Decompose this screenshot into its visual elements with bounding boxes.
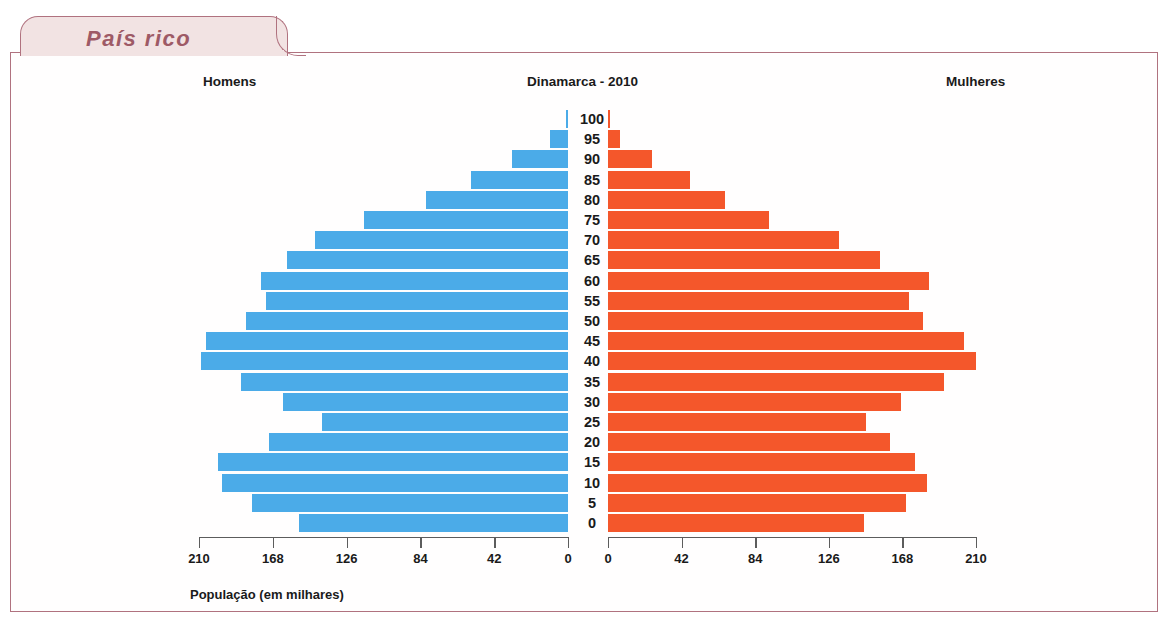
female-bar[interactable] — [608, 352, 976, 370]
male-bar-row[interactable] — [241, 373, 568, 391]
male-bar-row[interactable] — [426, 191, 568, 209]
male-bar[interactable] — [315, 231, 568, 249]
female-bar[interactable] — [608, 251, 880, 269]
female-bar-row[interactable] — [608, 231, 839, 249]
female-bar[interactable] — [608, 373, 944, 391]
male-bar[interactable] — [218, 453, 568, 471]
female-bar[interactable] — [608, 413, 866, 431]
female-bar-row[interactable] — [608, 393, 901, 411]
female-bar-row[interactable] — [608, 150, 652, 168]
female-bar[interactable] — [608, 171, 690, 189]
female-bar[interactable] — [608, 292, 909, 310]
female-bar[interactable] — [608, 494, 906, 512]
male-bar[interactable] — [364, 211, 568, 229]
female-bar[interactable] — [608, 393, 901, 411]
female-bar-row[interactable] — [608, 453, 915, 471]
female-bar-row[interactable] — [608, 272, 929, 290]
female-bar[interactable] — [608, 514, 864, 532]
male-bar[interactable] — [252, 494, 568, 512]
male-bar[interactable] — [426, 191, 568, 209]
female-bar[interactable] — [608, 272, 929, 290]
male-bar-row[interactable] — [550, 130, 568, 148]
female-bar-row[interactable] — [608, 130, 620, 148]
male-bar[interactable] — [299, 514, 568, 532]
x-axis-caption: População (em milhares) — [190, 587, 344, 602]
figure-root: País rico Homens Dinamarca - 2010 Mulher… — [0, 0, 1167, 623]
female-bar-row[interactable] — [608, 110, 610, 128]
chart-frame — [10, 52, 1158, 612]
female-bar-row[interactable] — [608, 332, 964, 350]
female-bar-row[interactable] — [608, 312, 923, 330]
male-bar[interactable] — [201, 352, 568, 370]
male-bar-row[interactable] — [283, 393, 568, 411]
male-bar[interactable] — [269, 433, 568, 451]
female-bar-row[interactable] — [608, 433, 890, 451]
female-bar[interactable] — [608, 110, 610, 128]
female-bar[interactable] — [608, 130, 620, 148]
female-bar-row[interactable] — [608, 494, 906, 512]
male-bar-row[interactable] — [222, 474, 568, 492]
male-bar-row[interactable] — [315, 231, 568, 249]
female-bar[interactable] — [608, 453, 915, 471]
female-bar-row[interactable] — [608, 514, 864, 532]
male-bar-row[interactable] — [246, 312, 568, 330]
male-bar-row[interactable] — [566, 110, 568, 128]
male-bar-row[interactable] — [269, 433, 568, 451]
female-bar[interactable] — [608, 474, 927, 492]
female-bar[interactable] — [608, 211, 769, 229]
male-bar-row[interactable] — [364, 211, 568, 229]
male-bar[interactable] — [261, 272, 569, 290]
male-bar[interactable] — [287, 251, 568, 269]
female-bar[interactable] — [608, 332, 964, 350]
male-bar[interactable] — [266, 292, 568, 310]
male-bar[interactable] — [566, 110, 568, 128]
section-tab-label: País rico — [86, 26, 191, 52]
male-bar-row[interactable] — [218, 453, 568, 471]
female-bar-row[interactable] — [608, 292, 909, 310]
male-bar[interactable] — [241, 373, 568, 391]
male-bar[interactable] — [471, 171, 568, 189]
male-bar-row[interactable] — [471, 171, 568, 189]
female-bar-row[interactable] — [608, 352, 976, 370]
male-bar-row[interactable] — [512, 150, 568, 168]
women-column-heading: Mulheres — [946, 74, 1005, 89]
female-bar[interactable] — [608, 312, 923, 330]
female-bar[interactable] — [608, 150, 652, 168]
male-bar[interactable] — [512, 150, 568, 168]
female-bar[interactable] — [608, 231, 839, 249]
female-bar[interactable] — [608, 433, 890, 451]
male-bar[interactable] — [206, 332, 568, 350]
female-bar-row[interactable] — [608, 191, 725, 209]
male-bar-row[interactable] — [252, 494, 568, 512]
female-bar-row[interactable] — [608, 211, 769, 229]
female-bar[interactable] — [608, 191, 725, 209]
female-bar-row[interactable] — [608, 413, 866, 431]
female-bar-row[interactable] — [608, 474, 927, 492]
male-bar[interactable] — [550, 130, 568, 148]
male-bar[interactable] — [283, 393, 568, 411]
female-bar-row[interactable] — [608, 373, 944, 391]
male-bar-row[interactable] — [206, 332, 568, 350]
chart-title: Dinamarca - 2010 — [527, 74, 638, 89]
male-bar-row[interactable] — [287, 251, 568, 269]
male-bar[interactable] — [222, 474, 568, 492]
male-bar-row[interactable] — [322, 413, 568, 431]
male-bar-row[interactable] — [261, 272, 569, 290]
female-bar-row[interactable] — [608, 171, 690, 189]
men-column-heading: Homens — [203, 74, 256, 89]
male-bar[interactable] — [246, 312, 568, 330]
male-bar-row[interactable] — [299, 514, 568, 532]
male-bar-row[interactable] — [201, 352, 568, 370]
female-bar-row[interactable] — [608, 251, 880, 269]
male-bar-row[interactable] — [266, 292, 568, 310]
male-bar[interactable] — [322, 413, 568, 431]
